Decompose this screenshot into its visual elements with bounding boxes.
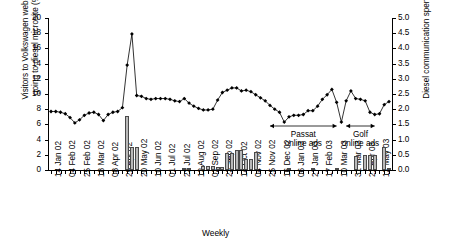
bar-spend [368,155,372,170]
x-axis-tick [322,171,323,174]
x-axis-tick-label: 04 Feb 02 [69,140,77,177]
y-axis-left-tick-label: 10 [19,90,41,98]
bar-spend [335,168,339,170]
bar-spend [244,159,248,170]
line-visitors-percent [51,34,389,123]
data-point-marker [273,107,277,111]
x-axis-tick-label: 06 Jan 03 [298,141,306,177]
y-axis-left-tick [45,33,48,34]
y-axis-left-tick [45,124,48,125]
data-point-marker [154,97,158,101]
x-axis-tick [337,171,338,174]
bar-spend [201,166,205,170]
y-axis-right-tick [393,170,396,171]
x-axis-tick [194,171,195,174]
data-point-marker [135,94,139,98]
data-point-marker [368,110,372,114]
y-axis-right-tick [393,109,396,110]
y-axis-right-tick [393,79,396,80]
data-point-marker [144,97,148,101]
x-axis-tick-label: 27 Jan 03 [312,141,320,177]
x-axis-tick-label: 08 Apr 02 [112,142,120,177]
bar-spend [206,166,210,170]
y-axis-right-tick-label: 0.5 [398,151,420,159]
y-axis-right-tick-label: 4.5 [398,29,420,37]
x-axis-tick [280,171,281,174]
x-axis-tick [208,171,209,174]
x-axis-tick [122,171,123,174]
y-axis-left-tick-label: 0 [19,166,41,174]
data-point-marker [349,89,353,93]
bar-spend [239,150,243,170]
data-point-marker [140,94,144,98]
data-point-marker [225,88,229,92]
y-axis-left-tick [45,155,48,156]
y-axis-left-tick-label: 12 [19,75,41,83]
x-axis-tick [180,171,181,174]
y-axis-left-tick [45,94,48,95]
data-point-marker [211,107,215,111]
y-axis-right-title: Diesel communication spend (£ms) [422,0,432,110]
data-point-marker [344,99,348,103]
x-axis-tick [108,171,109,174]
x-axis-tick-label: 18 Mar 02 [98,140,106,177]
x-axis-tick [379,171,380,174]
chart-root: Visitors to Volkswagen website going to … [0,0,451,242]
data-point-marker [73,121,77,125]
data-point-marker [168,97,172,101]
x-axis-tick-label: 20 May 02 [141,139,149,177]
annotation-arrows-layer [270,124,375,128]
y-axis-right-tick [393,140,396,141]
arrow-passat [270,124,337,128]
data-point-marker [240,89,244,93]
data-point-marker [254,93,258,97]
y-axis-left-line [48,18,49,171]
y-axis-left-tick [45,109,48,110]
data-point-marker [316,104,320,108]
data-point-marker [59,110,63,114]
y-axis-left-tick-label: 14 [19,60,41,68]
y-axis-right-tick-label: 5.0 [398,14,420,22]
data-point-marker [82,113,86,117]
x-axis-tick [80,171,81,174]
line-series-layer [49,32,391,125]
bar-spend [211,166,215,170]
data-point-marker [63,112,67,116]
data-point-marker [182,97,186,101]
x-axis-tick [51,171,52,174]
x-axis-tick [365,171,366,174]
data-point-marker [235,86,239,90]
arrow-golf [346,124,375,128]
y-axis-left-tick [45,48,48,49]
x-axis-tick [222,171,223,174]
data-point-marker [268,104,272,108]
data-point-marker [78,118,82,122]
data-point-marker [387,100,391,104]
bar-spend [382,147,386,170]
data-point-marker [101,119,105,123]
data-point-marker [306,109,310,113]
data-point-marker [173,99,177,103]
y-axis-right-tick-label: 0.0 [398,166,420,174]
data-point-marker [382,103,386,107]
y-axis-left-tick [45,18,48,19]
y-axis-right-tick-label: 1.5 [398,120,420,128]
data-point-marker [220,91,224,95]
x-axis-tick [94,171,95,174]
data-point-marker [163,97,167,101]
data-point-marker [87,111,91,115]
data-point-marker [287,115,291,119]
y-axis-left-tick-label: 16 [19,44,41,52]
bar-spend [225,153,229,170]
x-axis-tick [151,171,152,174]
chart-overlay [0,0,451,242]
bar-spend [235,150,239,170]
data-point-marker [178,100,182,104]
bar-spend [363,155,367,170]
y-axis-right-tick-label: 4.0 [398,44,420,52]
data-point-marker [125,63,129,67]
bar-spend [249,159,253,170]
y-axis-right-tick [393,94,396,95]
bar-spend [354,156,358,170]
y-axis-right-tick [393,124,396,125]
